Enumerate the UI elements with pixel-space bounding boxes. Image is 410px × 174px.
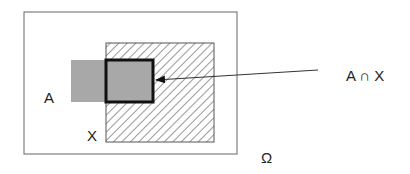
- intersection-label: A ∩ X: [346, 67, 384, 84]
- venn-diagram: [0, 0, 410, 174]
- set-x-label: X: [87, 127, 97, 144]
- set-a-label: A: [44, 89, 54, 106]
- intersection-rect: [106, 60, 153, 102]
- universe-label: Ω: [261, 149, 272, 166]
